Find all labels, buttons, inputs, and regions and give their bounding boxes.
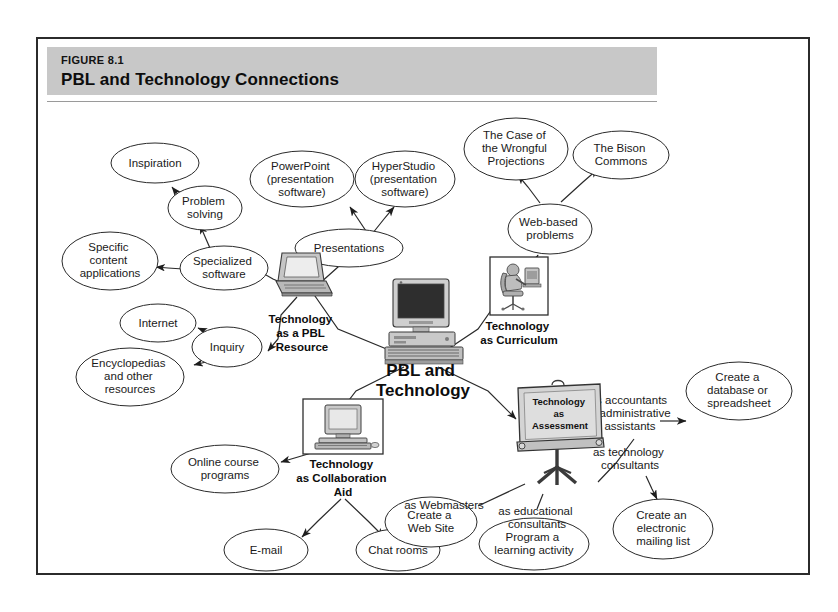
edge-collab-to-email: [302, 499, 341, 537]
node-presentations-label: Presentations: [314, 242, 385, 254]
node-inspiration-label: Inspiration: [128, 157, 181, 169]
node-inquiry-label: Inquiry: [210, 341, 245, 353]
node-web-based-problems-label: Web-based problems: [519, 216, 581, 241]
hub-label-pbl-resource: Technology as a PBL Resource: [269, 313, 336, 353]
page-root: FIGURE 8.1 PBL and Technology Connection…: [0, 0, 838, 612]
figure-frame: FIGURE 8.1 PBL and Technology Connection…: [36, 37, 810, 575]
node-create-database-spreadsheet-label: Create a database or spreadsheet: [707, 371, 771, 409]
edge-label-as-technology-consultants: as technology consultants: [593, 446, 667, 471]
hub-label-collaboration-aid: Technology as Collaboration Aid: [296, 458, 389, 498]
collaboration-computer-icon: [303, 399, 383, 454]
edge-tech-consultants-to-mailinglist: [646, 476, 657, 499]
edge-assessment-to-webmasters: [478, 484, 525, 506]
diagram-canvas: Inspiration Problem solving Specific con…: [38, 39, 812, 577]
node-wrongful-projections-label: The Case of the Wrongful Projections: [482, 129, 550, 167]
node-email-label: E-mail: [250, 544, 283, 556]
easel-flipchart-icon: Technology as Assessment: [517, 381, 604, 486]
edge-label-as-webmasters: as Webmasters: [404, 499, 484, 511]
edge-presentations-to-hyperstudio: [372, 207, 394, 234]
edge-label-as-educational-consultants: as educational consultants: [498, 505, 575, 530]
edge-specialized-to-specific-content: [156, 267, 183, 269]
node-create-electronic-mailing-list-label: Create an electronic mailing list: [636, 509, 691, 547]
node-create-web-site-label: Create a Web Site: [407, 509, 454, 534]
node-program-learning-activity-label: Program a learning activity: [494, 531, 574, 556]
node-specialized-software-label: Specialized software: [193, 255, 255, 280]
node-problem-solving-label: Problem solving: [182, 195, 228, 220]
hub-label-curriculum: Technology as Curriculum: [480, 320, 557, 346]
node-internet-label: Internet: [139, 317, 179, 329]
person-at-computer-icon: [490, 257, 548, 315]
concept-map-svg: Inspiration Problem solving Specific con…: [38, 39, 812, 577]
center-hub-label: PBL and Technology: [376, 361, 471, 400]
desktop-computer-icon: [385, 279, 463, 364]
node-bison-commons-label: The Bison Commons: [594, 142, 649, 167]
